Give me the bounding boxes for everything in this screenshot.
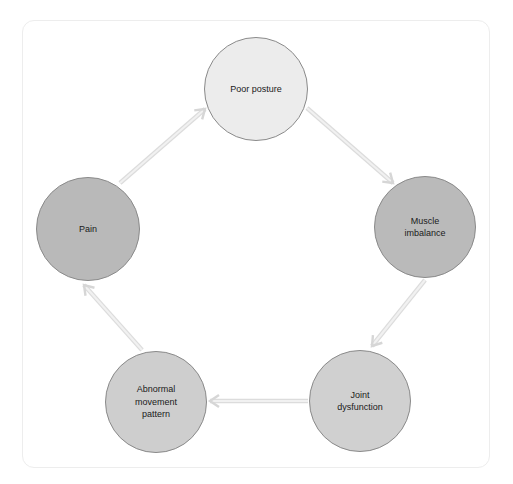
node-joint-dysfunction: Joint dysfunction bbox=[309, 350, 411, 452]
node-label: Joint dysfunction bbox=[337, 389, 383, 414]
arrow-shaft-highlight bbox=[84, 285, 142, 350]
node-abnormal-movement-pattern: Abnormal movement pattern bbox=[105, 351, 207, 453]
node-label: Poor posture bbox=[230, 83, 282, 96]
node-poor-posture: Poor posture bbox=[204, 37, 308, 141]
node-label: Pain bbox=[79, 223, 97, 236]
arrow-shaft-highlight bbox=[307, 108, 393, 183]
node-label: Abnormal movement pattern bbox=[135, 383, 177, 421]
node-pain: Pain bbox=[36, 177, 140, 281]
node-label: Muscle imbalance bbox=[404, 215, 445, 240]
arrow-shaft-highlight bbox=[120, 109, 205, 183]
node-muscle-imbalance: Muscle imbalance bbox=[374, 176, 476, 278]
arrow-shaft-highlight bbox=[372, 280, 425, 346]
